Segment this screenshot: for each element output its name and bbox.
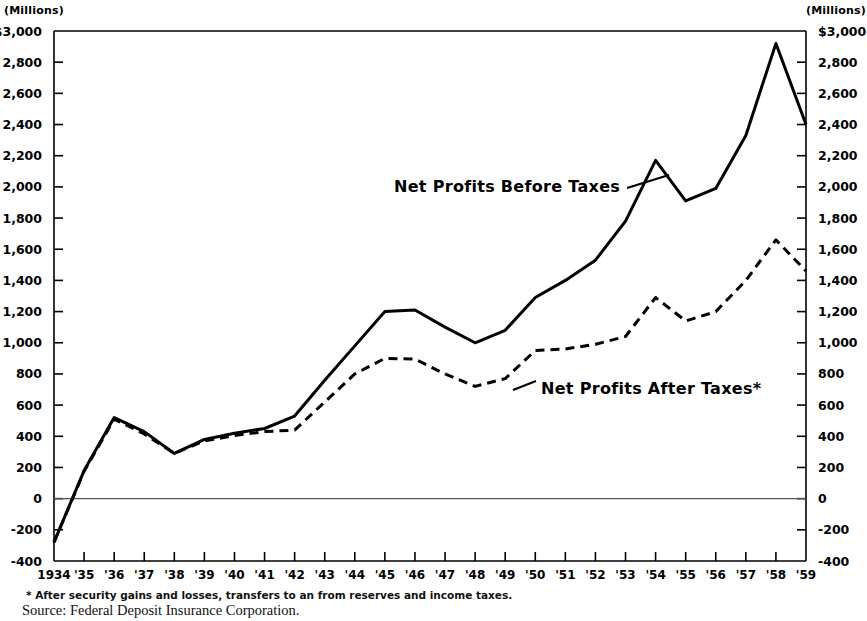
y-tick-label-left: 600 xyxy=(16,398,42,413)
y-tick-label-left: 1,200 xyxy=(2,304,42,319)
y-tick-label-left: 800 xyxy=(16,366,42,381)
x-tick-label: '39 xyxy=(194,568,214,582)
x-tick-label: '38 xyxy=(164,568,184,582)
x-tick-label: '43 xyxy=(315,568,335,582)
x-tick-label: '50 xyxy=(525,568,545,582)
x-tick-label: '35 xyxy=(74,568,94,582)
y-tick-label-right: 0 xyxy=(818,491,827,506)
x-tick-label: '45 xyxy=(375,568,395,582)
chart-figure: $3,0002,8002,6002,4002,2002,0001,8001,60… xyxy=(0,0,867,621)
x-tick-label: '44 xyxy=(345,568,365,582)
y-axis-ticks-right xyxy=(797,62,806,530)
y-tick-label-right: $3,000 xyxy=(818,24,867,39)
y-tick-label-left: 2,200 xyxy=(2,148,42,163)
left-unit-label: (Millions) xyxy=(4,4,64,17)
x-tick-label: 1934 xyxy=(37,568,70,582)
y-tick-label-right: 2,200 xyxy=(818,148,858,163)
x-tick-label: '59 xyxy=(796,568,816,582)
y-tick-label-right: 2,400 xyxy=(818,117,858,132)
y-tick-label-left: 1,400 xyxy=(2,273,42,288)
annotation-after-taxes: Net Profits After Taxes* xyxy=(541,379,762,398)
y-tick-label-right: 2,800 xyxy=(818,55,858,70)
x-axis-labels: 1934'35'36'37'38'39'40'41'42'43'44'45'46… xyxy=(37,568,816,582)
y-tick-label-left: 1,000 xyxy=(2,335,42,350)
y-tick-label-left: 2,600 xyxy=(2,86,42,101)
y-tick-label-left: -400 xyxy=(11,554,43,569)
y-tick-label-left: 0 xyxy=(33,491,42,506)
y-tick-label-right: 1,800 xyxy=(818,211,858,226)
y-tick-label-right: -400 xyxy=(818,554,850,569)
series-line-before-taxes xyxy=(54,43,806,542)
x-tick-label: '53 xyxy=(615,568,635,582)
x-tick-label: '52 xyxy=(585,568,605,582)
data-series-layer xyxy=(54,43,806,542)
annotation-before-taxes: Net Profits Before Taxes xyxy=(394,177,620,196)
x-tick-label: '48 xyxy=(465,568,485,582)
source-line: Source: Federal Deposit Insurance Corpor… xyxy=(22,602,299,619)
x-tick-label: '46 xyxy=(405,568,425,582)
footnote-star-note: * After security gains and losses, trans… xyxy=(26,589,512,601)
y-tick-label-left: 2,800 xyxy=(2,55,42,70)
y-tick-label-right: 800 xyxy=(818,366,844,381)
y-tick-label-right: 1,000 xyxy=(818,335,858,350)
x-tick-label: '57 xyxy=(736,568,756,582)
y-tick-label-right: 2,000 xyxy=(818,179,858,194)
x-tick-label: '58 xyxy=(766,568,786,582)
y-tick-label-right: 600 xyxy=(818,398,844,413)
y-tick-label-right: 1,600 xyxy=(818,242,858,257)
x-tick-label: '55 xyxy=(675,568,695,582)
x-tick-label: '36 xyxy=(104,568,124,582)
y-tick-label-left: 1,600 xyxy=(2,242,42,257)
bank-profits-line-chart: $3,0002,8002,6002,4002,2002,0001,8001,60… xyxy=(0,0,867,621)
y-tick-label-right: 1,200 xyxy=(818,304,858,319)
right-unit-label: (Millions) xyxy=(806,4,866,17)
x-tick-label: '49 xyxy=(495,568,515,582)
x-tick-label: '37 xyxy=(134,568,154,582)
x-tick-label: '54 xyxy=(645,568,665,582)
y-axis-labels-left: $3,0002,8002,6002,4002,2002,0001,8001,60… xyxy=(0,24,42,569)
x-tick-label: '42 xyxy=(284,568,304,582)
x-tick-label: '47 xyxy=(435,568,455,582)
plot-frame xyxy=(54,31,806,561)
x-axis-ticks xyxy=(84,552,776,561)
y-tick-label-right: -200 xyxy=(818,522,850,537)
y-tick-label-left: 2,400 xyxy=(2,117,42,132)
x-tick-label: '51 xyxy=(555,568,575,582)
y-tick-label-left: 2,000 xyxy=(2,179,42,194)
y-tick-label-right: 400 xyxy=(818,429,844,444)
y-tick-label-left: -200 xyxy=(11,522,43,537)
x-tick-label: '40 xyxy=(224,568,244,582)
annotation-leader-lines xyxy=(513,175,669,390)
y-tick-label-left: 200 xyxy=(16,460,42,475)
y-tick-label-right: 2,600 xyxy=(818,86,858,101)
y-tick-label-right: 1,400 xyxy=(818,273,858,288)
x-tick-label: '41 xyxy=(254,568,274,582)
x-tick-label: '56 xyxy=(706,568,726,582)
y-tick-label-left: 1,800 xyxy=(2,211,42,226)
y-tick-label-left: 400 xyxy=(16,429,42,444)
y-tick-label-right: 200 xyxy=(818,460,844,475)
y-axis-labels-right: $3,0002,8002,6002,4002,2002,0001,8001,60… xyxy=(818,24,867,569)
y-axis-ticks-left xyxy=(54,62,63,530)
y-tick-label-left: $3,000 xyxy=(0,24,42,39)
